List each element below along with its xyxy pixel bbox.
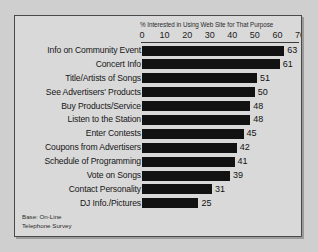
category-label: Title/Artists of Songs xyxy=(65,73,141,83)
bar-value-label: 45 xyxy=(247,128,257,138)
x-tick-20: 20 xyxy=(182,30,192,40)
bar-value-label: 48 xyxy=(253,101,263,111)
bar xyxy=(142,143,237,153)
bar xyxy=(142,73,257,83)
category-label: Enter Contests xyxy=(86,128,141,138)
bar-row: Concert Info61 xyxy=(15,58,302,72)
bar-value-label: 50 xyxy=(258,87,268,97)
category-label: Concert Info xyxy=(96,59,141,69)
x-tick-70: 70 xyxy=(295,30,302,40)
bar-row: Vote on Songs39 xyxy=(15,169,302,183)
bar-row: Buy Products/Service48 xyxy=(15,100,302,114)
bar-value-label: 41 xyxy=(238,156,248,166)
bar-value-label: 39 xyxy=(233,170,243,180)
x-tick-50: 50 xyxy=(250,30,260,40)
bar xyxy=(142,87,255,97)
category-label: Vote on Songs xyxy=(87,170,141,180)
bar xyxy=(142,59,280,69)
bar-row: Info on Community Event63 xyxy=(15,44,302,58)
bar-row: Coupons from Advertisers42 xyxy=(15,141,302,155)
bar-row: Enter Contests45 xyxy=(15,127,302,141)
bar-value-label: 48 xyxy=(253,114,263,124)
bar-row: Schedule of Programming41 xyxy=(15,155,302,169)
bar xyxy=(142,129,244,139)
chart-footnote: Base: On-Line Telephone Survey xyxy=(22,213,72,230)
bar-value-label: 61 xyxy=(283,59,293,69)
bar-row: Contact Personality31 xyxy=(15,183,302,197)
plot-area: Info on Community Event63Concert Info61T… xyxy=(15,44,302,216)
chart-figure: % Interested in Using Web Site for That … xyxy=(14,15,302,237)
bar xyxy=(142,46,284,56)
x-axis-line xyxy=(141,42,299,43)
category-label: DJ Info./Pictures xyxy=(80,198,141,208)
bar-row: DJ Info./Pictures25 xyxy=(15,197,302,211)
category-label: Listen to the Station xyxy=(68,114,141,124)
x-tick-0: 0 xyxy=(139,30,144,40)
x-tick-10: 10 xyxy=(160,30,170,40)
bar xyxy=(142,115,250,125)
bar xyxy=(142,198,198,208)
category-label: Contact Personality xyxy=(69,184,141,194)
bar-value-label: 25 xyxy=(201,198,211,208)
chart-title: % Interested in Using Web Site for That … xyxy=(140,21,300,28)
category-label: Info on Community Event xyxy=(47,45,141,55)
x-tick-60: 60 xyxy=(272,30,282,40)
category-label: Schedule of Programming xyxy=(44,156,141,166)
bar xyxy=(142,171,230,181)
category-label: Coupons from Advertisers xyxy=(45,142,141,152)
bar-value-label: 31 xyxy=(215,184,225,194)
bar xyxy=(142,157,235,167)
bar-value-label: 63 xyxy=(287,45,297,55)
bar-value-label: 42 xyxy=(240,142,250,152)
bar-row: Listen to the Station48 xyxy=(15,113,302,127)
category-label: See Advertisers' Products xyxy=(46,87,141,97)
x-tick-40: 40 xyxy=(227,30,237,40)
bar-value-label: 51 xyxy=(260,73,270,83)
bar xyxy=(142,184,212,194)
bar-row: See Advertisers' Products50 xyxy=(15,86,302,100)
category-label: Buy Products/Service xyxy=(61,101,141,111)
x-tick-30: 30 xyxy=(205,30,215,40)
bar-row: Title/Artists of Songs51 xyxy=(15,72,302,86)
x-axis-tick-labels: 010203040506070 xyxy=(138,30,302,42)
bar xyxy=(142,101,250,111)
